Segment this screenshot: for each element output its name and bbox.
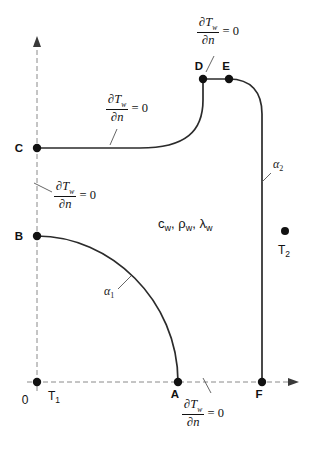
fraction-block: ∂Tw ∂n [182, 398, 204, 429]
node-dot-C [33, 144, 41, 152]
fraction-block: ∂Tw ∂n [106, 93, 128, 124]
node-label-A: A [171, 388, 179, 400]
temperature-label-t2: T2 [278, 243, 290, 259]
fraction-denominator: ∂n [57, 198, 74, 211]
leader-bc-bottom-af [203, 378, 211, 393]
boundary-condition-bottom-af: ∂Tw ∂n = 0 [182, 398, 224, 429]
node-dot-B [33, 232, 41, 240]
temperature-label-t1: T1 [48, 389, 60, 405]
node-label-D: D [195, 60, 203, 72]
arc-b-to-a [37, 236, 178, 382]
fraction-numerator: ∂Tw [197, 16, 219, 31]
temperature-label-group: T1 T2 [48, 243, 290, 405]
node-dot-D [199, 75, 207, 83]
boundary-condition-left-bc: ∂Tw ∂n = 0 [54, 180, 96, 211]
node-label-C: C [15, 142, 23, 154]
node-label-E: E [222, 60, 230, 72]
node-dot-T2 [281, 227, 289, 235]
alpha1-label: α1 [104, 284, 114, 300]
leader-bc-upper-c [110, 129, 117, 145]
node-dot-A [174, 378, 182, 386]
fraction-numerator: ∂Tw [182, 398, 204, 413]
equals-zero: = 0 [222, 25, 238, 38]
y-axis-arrow-icon [33, 36, 41, 47]
fraction-denominator: ∂n [185, 416, 202, 429]
fraction-denominator: ∂n [200, 34, 217, 47]
material-properties-label: cw, ρw, λw [158, 216, 213, 233]
fraction-numerator: ∂Tw [54, 180, 76, 195]
boundary-condition-diagram: A B C D E F 0 T1 T2 α1 α2 [0, 0, 310, 455]
leader-alpha2 [262, 173, 271, 182]
fraction-denominator: ∂n [109, 111, 126, 124]
fraction-block: ∂Tw ∂n [197, 16, 219, 47]
alpha2-label: α2 [273, 157, 283, 173]
axis-group [27, 36, 299, 392]
equals-zero: = 0 [131, 102, 147, 115]
x-axis-arrow-icon [288, 378, 299, 386]
leader-alpha1 [118, 276, 131, 289]
leader-line-group [34, 56, 271, 393]
fraction-block: ∂Tw ∂n [54, 180, 76, 211]
boundary-group [37, 79, 262, 382]
diagram-canvas: A B C D E F 0 T1 T2 α1 α2 [0, 0, 310, 455]
fraction-numerator: ∂Tw [106, 93, 128, 108]
node-dot-F [258, 378, 266, 386]
node-dot-origin [33, 378, 41, 386]
boundary-condition-top-de: ∂Tw ∂n = 0 [197, 16, 239, 47]
node-label-F: F [255, 388, 262, 400]
equals-zero: = 0 [207, 407, 223, 420]
wall-contour-c-d-e-f [37, 79, 262, 382]
equals-zero: = 0 [79, 189, 95, 202]
node-dot-E [225, 75, 233, 83]
node-label-B: B [15, 230, 23, 242]
leader-bc-top-de [206, 56, 214, 72]
origin-label: 0 [22, 393, 29, 407]
boundary-condition-upper-c: ∂Tw ∂n = 0 [106, 93, 148, 124]
